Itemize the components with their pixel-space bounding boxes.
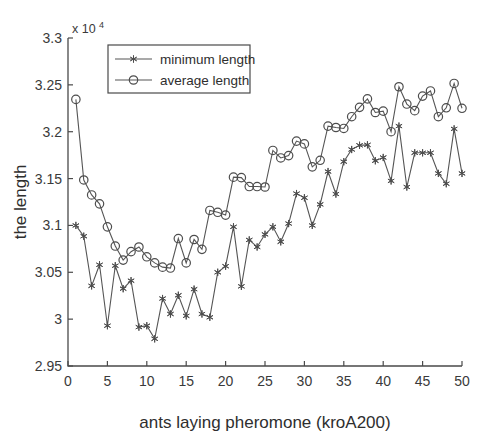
x-tick-label: 15	[178, 373, 194, 389]
x-tick-label: 35	[336, 373, 352, 389]
y-tick-label: 3.3	[43, 30, 63, 46]
marker-star	[89, 282, 95, 289]
marker-star	[396, 122, 402, 129]
y-axis-ticks: 2.9533.053.13.153.23.253.3	[35, 30, 73, 374]
x-tick-label: 25	[257, 373, 273, 389]
legend-label: average length	[160, 73, 249, 88]
series-line	[76, 83, 462, 268]
x-tick-label: 45	[415, 373, 431, 389]
marker-star	[301, 194, 307, 201]
marker-star	[278, 238, 284, 245]
marker-star	[215, 269, 221, 276]
marker-star	[309, 222, 315, 229]
x-tick-label: 10	[139, 373, 155, 389]
marker-star	[167, 310, 173, 317]
x-tick-label: 40	[375, 373, 391, 389]
marker-star	[238, 283, 244, 290]
marker-star	[191, 286, 197, 293]
y-tick-label: 3.2	[43, 124, 63, 140]
marker-star	[451, 125, 457, 132]
x-axis-ticks: 05101520253035404550	[64, 361, 470, 389]
x-tick-label: 5	[104, 373, 112, 389]
marker-star	[112, 262, 118, 269]
marker-star	[293, 190, 299, 197]
x-tick-label: 50	[454, 373, 470, 389]
line-chart-svg: 2.9533.053.13.153.23.253.3 0510152025303…	[0, 0, 490, 441]
marker-star	[325, 168, 331, 175]
x-axis-label: ants laying pheromone (kroA200)	[139, 413, 390, 432]
marker-star	[230, 223, 236, 230]
marker-star	[222, 263, 228, 270]
chart-figure: 2.9533.053.13.153.23.253.3 0510152025303…	[0, 0, 490, 441]
marker-star	[380, 154, 386, 161]
marker-star	[388, 177, 394, 184]
series-line	[76, 126, 462, 339]
marker-star	[199, 310, 205, 317]
marker-star	[104, 322, 110, 329]
y-tick-label: 3	[54, 311, 62, 327]
marker-star	[459, 170, 465, 177]
marker-star	[183, 312, 189, 319]
x-tick-label: 0	[64, 373, 72, 389]
x-tick-label: 30	[297, 373, 313, 389]
y-tick-label: 3.15	[35, 171, 62, 187]
marker-star	[96, 261, 102, 268]
marker-star	[152, 335, 158, 342]
y-axis-label: the length	[11, 165, 30, 240]
chart-legend: minimum lengthaverage length	[108, 45, 255, 93]
y-tick-label: 3.25	[35, 77, 62, 93]
y-tick-label: 2.95	[35, 358, 62, 374]
marker-star	[175, 292, 181, 299]
marker-star	[333, 190, 339, 197]
y-tick-label: 3.05	[35, 264, 62, 280]
marker-star	[207, 314, 213, 321]
data-series-layer	[72, 79, 467, 342]
marker-star	[372, 157, 378, 164]
x-tick-label: 20	[218, 373, 234, 389]
y-tick-label: 3.1	[43, 217, 63, 233]
legend-label: minimum length	[160, 52, 255, 67]
marker-star	[286, 220, 292, 227]
series-minimum-length	[73, 122, 465, 342]
marker-star	[404, 183, 410, 190]
marker-star	[317, 201, 323, 208]
series-average-length	[72, 79, 467, 272]
y-axis-exponent-label: x 10 4	[72, 20, 104, 36]
marker-star	[159, 295, 165, 302]
